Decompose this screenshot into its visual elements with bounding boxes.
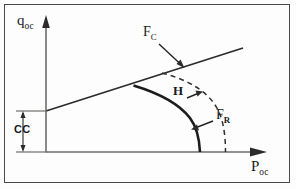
cc-down-arrowhead-icon [21, 145, 26, 152]
fr-label-subscript: R [224, 115, 231, 125]
x-axis-label: Poc [251, 159, 269, 177]
y-axis-label-text: q [17, 12, 25, 28]
fc-label-subscript: C [151, 32, 157, 42]
figure-root: qoc Poc FC FR H CC [0, 0, 296, 189]
x-axis-label-subscript: oc [259, 167, 268, 177]
fc-label: FC [143, 25, 157, 42]
fr-label-text: F [216, 107, 224, 122]
h-label: H [173, 84, 183, 97]
right-arrow-icon [250, 147, 267, 156]
yield-cap-curve [134, 86, 201, 153]
fc-leader-line [159, 44, 182, 65]
fc-envelope-line [46, 48, 243, 111]
y-axis-label-subscript: oc [25, 21, 34, 31]
fc-label-text: F [143, 24, 151, 39]
cc-label: CC [14, 124, 31, 135]
h-arrowhead-icon [196, 91, 204, 97]
fr-label: FR [216, 108, 230, 125]
up-arrow-icon [42, 15, 50, 28]
y-axis-label: qoc [17, 13, 34, 31]
cc-up-arrowhead-icon [21, 111, 26, 118]
